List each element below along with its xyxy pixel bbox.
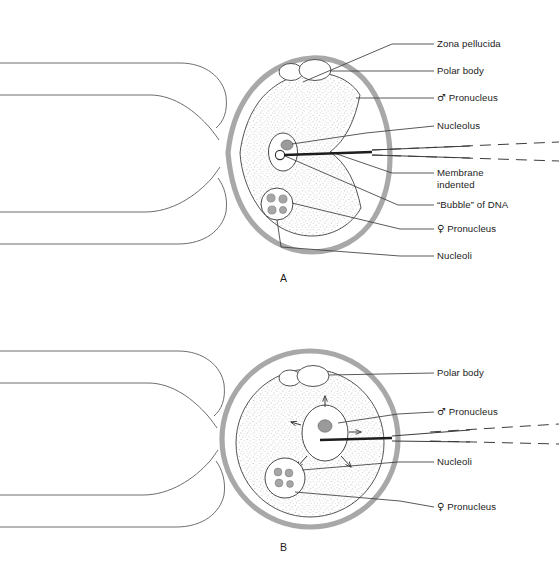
bubble-of-dna-a — [275, 150, 284, 159]
panel-b-left-tube-upper — [0, 351, 224, 428]
label-membrane-indented-a-line2: indented — [437, 179, 475, 191]
leader-polar-body-b — [329, 373, 434, 375]
female-pronucleus-a — [261, 188, 293, 220]
label-bubble-of-dna-a: “Bubble” of DNA — [437, 199, 508, 211]
nucleolus-a — [281, 140, 293, 150]
label-polar-body-b: Polar body — [437, 367, 484, 379]
polar-body-b-large — [297, 366, 329, 387]
polar-body-a-large — [299, 60, 331, 81]
label-male-pronucleus-a: ♂ Pronucleus — [437, 92, 498, 104]
label-nucleoli-b: Nucleoli — [437, 456, 472, 468]
male-symbol-b: ♂ — [437, 406, 446, 417]
label-nucleoli-a: Nucleoli — [437, 250, 472, 262]
panel-a-ray-solid-stubs — [372, 146, 470, 158]
label-female-pronucleus-a: ♀ Pronucleus — [437, 223, 496, 235]
label-male-pronucleus-b-text: Pronucleus — [446, 406, 498, 417]
label-polar-body-a: Polar body — [437, 65, 484, 77]
figure-canvas: Zona pellucida Polar body ♂ Pronucleus N… — [0, 0, 559, 582]
panel-a-left-tube-lower — [0, 167, 227, 244]
label-female-pronucleus-b: ♀ Pronucleus — [437, 501, 496, 513]
label-male-pronucleus-b: ♂ Pronucleus — [437, 406, 498, 418]
panel-b-left-tube-lower — [0, 450, 225, 527]
male-pronucleus-b — [302, 405, 348, 461]
panel-letter-a: A — [280, 272, 287, 284]
male-symbol-a: ♂ — [437, 92, 446, 103]
label-male-pronucleus-a-text: Pronucleus — [446, 92, 498, 103]
nucleolus-b — [318, 420, 332, 432]
panel-letter-b: B — [280, 541, 287, 553]
label-female-pronucleus-b-text: Pronucleus — [444, 501, 496, 512]
panel-b-dashed-rays — [430, 424, 559, 444]
label-membrane-indented-a-line1: Membrane — [437, 167, 484, 179]
panel-a-left-tube-upper — [0, 63, 226, 140]
diagram-svg — [0, 0, 559, 582]
label-nucleolus-a: Nucleolus — [437, 120, 480, 132]
label-zona-pellucida-a: Zona pellucida — [437, 38, 501, 50]
label-female-pronucleus-a-text: Pronucleus — [444, 223, 496, 234]
